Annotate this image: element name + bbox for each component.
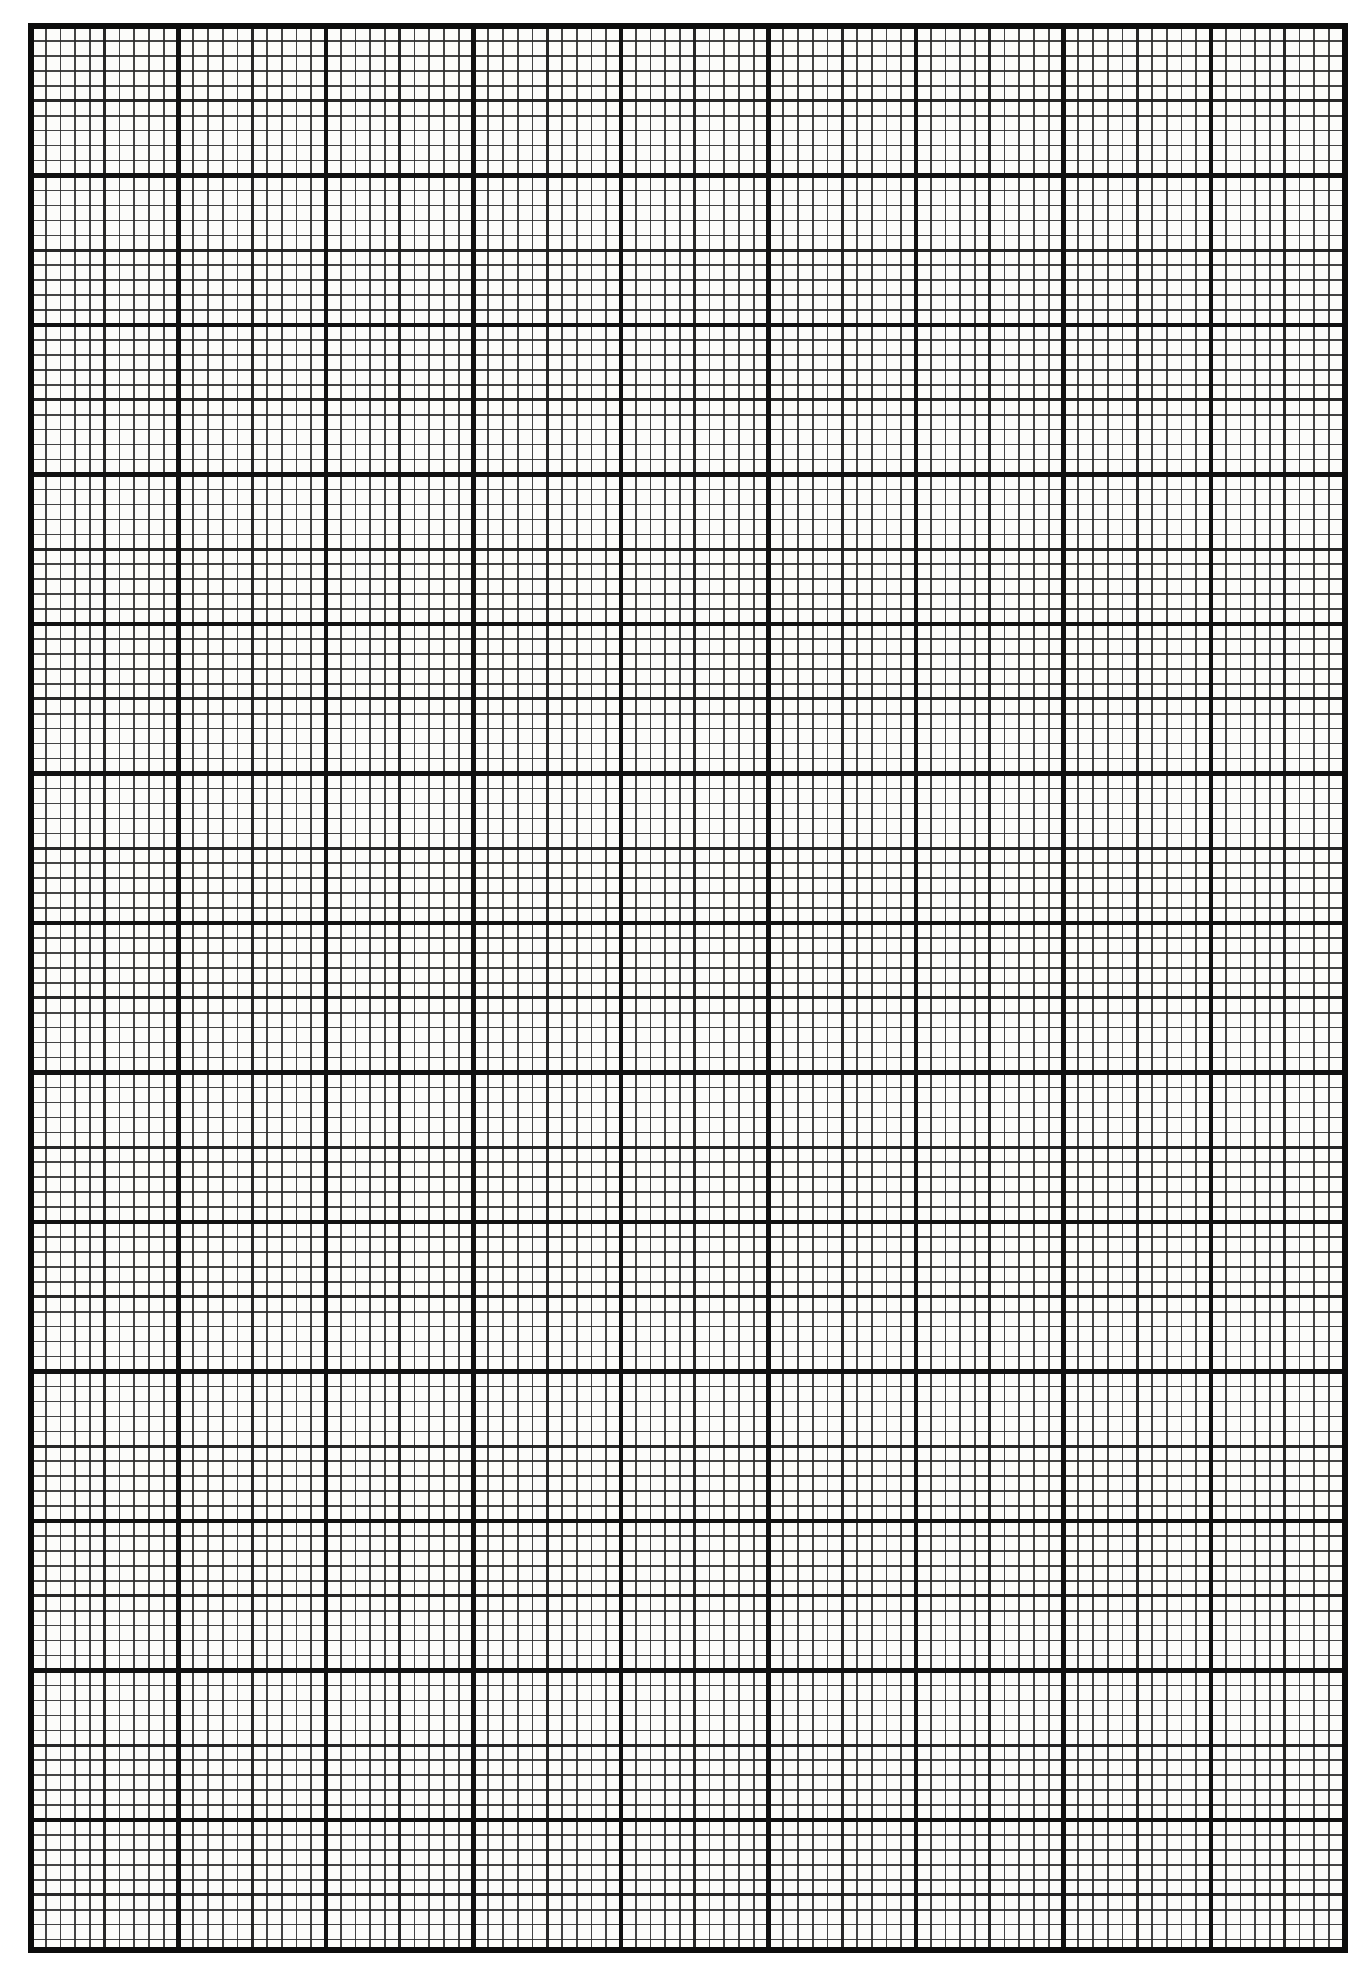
- grid-svg: [0, 0, 1368, 1977]
- graph-paper-sheet: [0, 0, 1368, 1977]
- grid-canvas: [0, 0, 1368, 1977]
- medium-gridlines-layer: [31, 26, 1345, 1950]
- grid-border: [31, 26, 1345, 1950]
- major-gridlines-layer: [31, 26, 1345, 1950]
- minor-gridlines-layer: [31, 26, 1345, 1950]
- grid-border-layer: [31, 26, 1345, 1950]
